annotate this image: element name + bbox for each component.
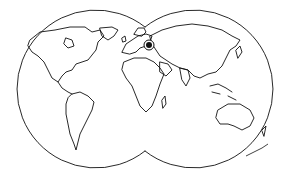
western-hemisphere-outline [17,10,145,168]
africa [122,58,164,112]
india [180,68,190,86]
target-location-marker [144,40,154,50]
southeast-asia-islands [210,84,236,100]
australia [216,104,254,130]
world-map [0,0,288,178]
hudson-bay [64,38,74,48]
north-america [28,27,104,82]
arabia [160,62,172,76]
japan [236,46,242,58]
asia [150,24,240,78]
madagascar [162,96,166,108]
south-america [66,92,94,150]
central-america [58,82,72,94]
british-isles [122,36,126,42]
eastern-hemisphere-outline [145,10,273,168]
